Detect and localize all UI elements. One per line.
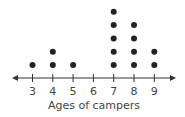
- tick-label: 8: [131, 85, 138, 98]
- data-dot: [131, 49, 137, 55]
- data-dot: [30, 62, 36, 68]
- data-dot: [111, 62, 117, 68]
- data-dot: [111, 35, 117, 41]
- tick-label: 6: [90, 85, 97, 98]
- left-arrow-icon: [12, 75, 18, 81]
- data-dot: [50, 49, 56, 55]
- tick-label: 7: [110, 85, 117, 98]
- tick-label: 3: [29, 85, 36, 98]
- data-dot: [131, 35, 137, 41]
- data-dot: [131, 22, 137, 28]
- number-line: [12, 74, 176, 82]
- data-dot: [111, 9, 117, 15]
- data-dot: [50, 62, 56, 68]
- dot-plot-chart: 3456789 Ages of campers: [0, 0, 185, 117]
- tick-label: 9: [151, 85, 158, 98]
- tick-labels: 3456789: [29, 85, 158, 98]
- data-dot: [70, 62, 76, 68]
- right-arrow-icon: [170, 75, 176, 81]
- data-dot: [111, 49, 117, 55]
- data-dot: [151, 49, 157, 55]
- tick-label: 4: [49, 85, 56, 98]
- dots: [30, 9, 158, 68]
- x-axis-label: Ages of campers: [48, 99, 140, 112]
- data-dot: [131, 62, 137, 68]
- tick-label: 5: [70, 85, 77, 98]
- data-dot: [151, 62, 157, 68]
- data-dot: [111, 22, 117, 28]
